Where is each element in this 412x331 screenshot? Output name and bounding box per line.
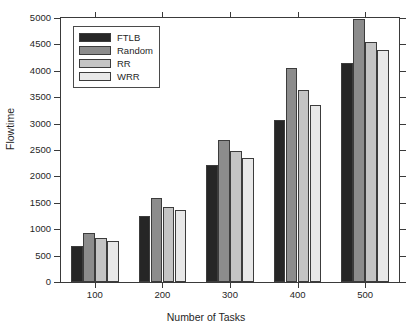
y-tick-mark-right: [399, 176, 406, 177]
x-tick-mark: [230, 282, 231, 288]
y-tick-mark-right: [399, 229, 406, 230]
y-tick-mark: [54, 44, 61, 45]
y-tick-mark-right: [399, 71, 406, 72]
bar-wrr-200: [175, 210, 187, 282]
flowtime-bar-chart-figure: Flowtime 0500100015002000250030003500400…: [0, 0, 412, 331]
y-tick-label: 500: [35, 251, 51, 261]
y-tick-mark-right: [399, 203, 406, 204]
bar-random-200: [151, 198, 163, 282]
y-tick-mark: [54, 150, 61, 151]
y-tick-mark: [54, 256, 61, 257]
bar-rr-200: [163, 207, 175, 282]
y-tick-mark: [54, 18, 61, 19]
x-tick-mark-top: [162, 12, 163, 18]
bar-rr-300: [230, 151, 242, 282]
x-tick-mark-top: [365, 12, 366, 18]
legend-label: Random: [117, 46, 153, 56]
legend-item-rr[interactable]: RR: [79, 57, 153, 70]
x-tick-mark-top: [230, 12, 231, 18]
x-tick-label: 400: [290, 289, 306, 300]
legend-swatch-icon: [79, 72, 111, 81]
y-tick-mark-right: [399, 18, 406, 19]
bar-ftlb-200: [139, 216, 151, 282]
plot-area: 0500100015002000250030003500400045005000…: [60, 17, 400, 283]
x-tick-mark: [95, 282, 96, 288]
legend-item-wrr[interactable]: WRR: [79, 70, 153, 83]
x-tick-mark-top: [298, 12, 299, 18]
y-tick-label: 4500: [30, 40, 51, 50]
y-tick-label: 1500: [30, 198, 51, 208]
bar-rr-400: [298, 90, 310, 282]
legend-item-random[interactable]: Random: [79, 44, 153, 57]
x-tick-mark: [298, 282, 299, 288]
y-tick-mark: [54, 282, 61, 283]
y-tick-label: 3500: [30, 92, 51, 102]
bar-wrr-400: [310, 105, 322, 282]
x-tick-label: 200: [154, 289, 170, 300]
bar-ftlb-500: [341, 63, 353, 282]
legend-swatch-icon: [79, 46, 111, 55]
y-tick-label: 2500: [30, 145, 51, 155]
bar-ftlb-100: [71, 246, 83, 282]
bar-ftlb-300: [206, 165, 218, 282]
y-tick-mark-right: [399, 97, 406, 98]
y-tick-label: 5000: [30, 13, 51, 23]
y-tick-mark: [54, 203, 61, 204]
x-tick-label: 100: [87, 289, 103, 300]
y-tick-mark: [54, 97, 61, 98]
x-tick-mark: [162, 282, 163, 288]
bar-ftlb-400: [274, 120, 286, 282]
bar-random-300: [218, 140, 230, 282]
y-tick-mark-right: [399, 256, 406, 257]
y-tick-label: 0: [46, 277, 51, 287]
bar-wrr-100: [107, 241, 119, 282]
y-axis-title: Flowtime: [4, 108, 16, 150]
y-tick-mark: [54, 176, 61, 177]
chart-legend: FTLBRandomRRWRR: [73, 26, 160, 88]
legend-item-ftlb[interactable]: FTLB: [79, 31, 153, 44]
bar-random-400: [286, 68, 298, 282]
x-tick-label: 300: [222, 289, 238, 300]
bar-rr-100: [95, 238, 107, 282]
y-tick-mark-right: [399, 150, 406, 151]
y-tick-label: 4000: [30, 66, 51, 76]
bar-rr-500: [365, 42, 377, 282]
legend-label: RR: [117, 59, 131, 69]
legend-label: FTLB: [117, 33, 140, 43]
y-tick-mark: [54, 124, 61, 125]
x-tick-label: 500: [357, 289, 373, 300]
y-tick-label: 1000: [30, 224, 51, 234]
y-tick-mark-right: [399, 124, 406, 125]
legend-swatch-icon: [79, 33, 111, 42]
y-tick-mark-right: [399, 44, 406, 45]
x-axis-title: Number of Tasks: [0, 311, 412, 323]
x-tick-mark: [365, 282, 366, 288]
y-tick-mark-right: [399, 282, 406, 283]
bar-wrr-500: [377, 50, 389, 282]
y-tick-mark: [54, 71, 61, 72]
y-tick-mark: [54, 229, 61, 230]
legend-swatch-icon: [79, 59, 111, 68]
bar-wrr-300: [242, 158, 254, 282]
y-tick-label: 3000: [30, 119, 51, 129]
y-tick-label: 2000: [30, 172, 51, 182]
bar-random-500: [353, 19, 365, 282]
legend-label: WRR: [117, 72, 140, 82]
x-tick-mark-top: [95, 12, 96, 18]
bar-random-100: [83, 233, 95, 282]
